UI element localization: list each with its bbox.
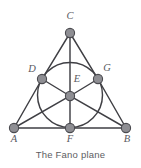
fano-plane-diagram: C D G E A F B <box>0 0 141 168</box>
node-d <box>37 74 46 83</box>
node-label-f: F <box>66 133 74 144</box>
node-g <box>93 74 102 83</box>
line-a-e-g <box>14 79 98 128</box>
node-label-d: D <box>27 63 36 74</box>
node-f <box>65 123 74 132</box>
figure-caption: The Fano plane <box>0 149 141 160</box>
node-label-e: E <box>73 73 81 84</box>
node-label-a: A <box>10 133 18 144</box>
line-group <box>14 33 126 128</box>
node-label-g: G <box>103 62 111 73</box>
node-c <box>65 28 74 37</box>
node-b <box>121 123 130 132</box>
node-a <box>9 123 18 132</box>
node-e <box>65 91 74 100</box>
node-label-c: C <box>66 10 74 21</box>
fano-plane-figure: C D G E A F B The Fano plane <box>0 0 141 168</box>
line-b-e-d <box>42 79 126 128</box>
node-label-b: B <box>124 133 131 144</box>
